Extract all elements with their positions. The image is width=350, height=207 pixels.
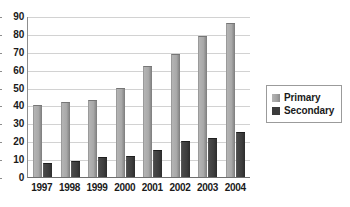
bar-group [112, 17, 140, 177]
y-axis-tick-mark [0, 142, 2, 143]
bar-primary-2003 [198, 36, 207, 177]
bar-group [84, 17, 112, 177]
bar-secondary-1997 [43, 163, 52, 177]
y-axis-tick-label: 60 [2, 66, 24, 76]
bar-primary-2000 [116, 88, 125, 177]
x-axis-tick-label: 1997 [28, 182, 56, 193]
bar-secondary-2002 [181, 141, 190, 177]
y-axis-tick-mark [0, 35, 2, 36]
bar-primary-1997 [33, 105, 42, 177]
legend-item-primary[interactable]: Primary [272, 91, 334, 104]
legend-item-label: Primary [284, 92, 321, 103]
y-axis-tick-label: 40 [2, 101, 24, 111]
bar-chart: 9080706050403020100 19971998199920002001… [0, 0, 350, 207]
chart-legend: PrimarySecondary [266, 85, 342, 123]
y-axis-tick-mark [0, 160, 2, 161]
legend-item-label: Secondary [284, 105, 334, 116]
y-axis-tick-label: 50 [2, 84, 24, 94]
y-axis-tick-mark [0, 17, 2, 18]
legend-item-secondary[interactable]: Secondary [272, 104, 334, 117]
bar-secondary-2003 [208, 138, 217, 177]
x-axis-tick-label: 2001 [139, 182, 167, 193]
y-axis-tick-label: 30 [2, 119, 24, 129]
y-axis-tick-mark [0, 106, 2, 107]
bar-secondary-1998 [71, 161, 80, 177]
y-axis-tick-label: 90 [2, 12, 24, 22]
y-axis-tick-mark [0, 71, 2, 72]
bar-group [139, 17, 167, 177]
bar-group [57, 17, 85, 177]
bar-secondary-1999 [98, 157, 107, 177]
primary-swatch-icon [272, 94, 280, 102]
bar-primary-2002 [171, 54, 180, 177]
bar-group [167, 17, 195, 177]
bar-groups [28, 17, 250, 177]
bar-primary-2001 [143, 66, 152, 177]
bar-primary-1998 [61, 102, 70, 177]
x-axis-tick-label: 2000 [111, 182, 139, 193]
x-axis-tick-labels: 19971998199920002001200220032004 [27, 182, 250, 193]
x-axis-tick-label: 1999 [83, 182, 111, 193]
y-axis-tick-label: 80 [2, 30, 24, 40]
y-axis-tick-mark [0, 178, 2, 179]
y-axis-tick-label: 70 [2, 48, 24, 58]
bar-group [29, 17, 57, 177]
y-axis-tick-mark [0, 89, 2, 90]
bar-secondary-2000 [126, 156, 135, 177]
x-axis-tick-label: 2002 [166, 182, 194, 193]
x-axis-tick-label: 2004 [221, 182, 249, 193]
bar-primary-2004 [226, 23, 235, 177]
chart-title-remnant [150, 0, 210, 4]
bar-group [194, 17, 222, 177]
x-axis-tick-label: 2003 [194, 182, 222, 193]
bar-secondary-2001 [153, 150, 162, 177]
y-axis-tick-mark [0, 124, 2, 125]
y-axis-tick-label: 0 [2, 173, 24, 183]
y-axis-tick-mark [0, 53, 2, 54]
x-axis-tick-label: 1998 [56, 182, 84, 193]
y-axis-tick-label: 10 [2, 155, 24, 165]
bar-group [222, 17, 250, 177]
bar-primary-1999 [88, 100, 97, 177]
secondary-swatch-icon [272, 107, 280, 115]
y-axis-tick-label: 20 [2, 137, 24, 147]
plot-area [27, 17, 250, 178]
bar-secondary-2004 [236, 132, 245, 177]
